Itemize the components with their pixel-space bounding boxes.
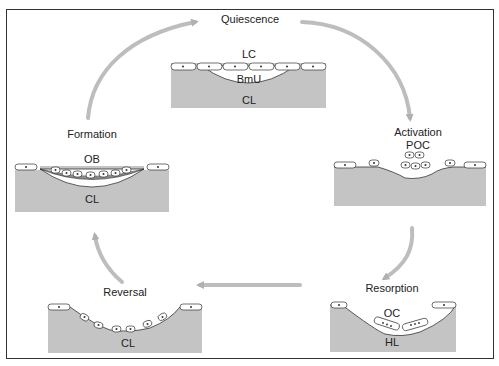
phase-label-reversal: Reversal [103, 286, 146, 298]
arrow-reversal-to-formation [95, 236, 122, 282]
annotation-cl-reversal: CL [121, 337, 135, 349]
cycle-arrows [88, 22, 412, 285]
annotation-cl-formation: CL [85, 193, 99, 205]
annotation-poc: POC [406, 139, 430, 151]
phase-label-formation: Formation [67, 128, 117, 140]
annotation-oc: OC [384, 307, 401, 319]
annotation-bmu: BmU [237, 73, 261, 85]
phase-label-resorption: Resorption [365, 282, 418, 294]
annotation-lc: LC [242, 48, 256, 60]
activation-panel [334, 152, 486, 206]
annotation-ob: OB [84, 153, 100, 165]
arrow-activation-to-resorption [385, 228, 412, 278]
annotation-hl: HL [385, 336, 399, 348]
annotation-cl-quiescence: CL [242, 94, 256, 106]
phase-label-activation: Activation [394, 126, 442, 138]
phase-label-quiescence: Quiescence [221, 13, 279, 25]
